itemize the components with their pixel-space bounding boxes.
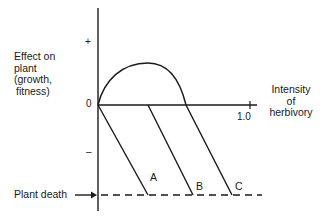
herbivory-effect-diagram: Effect on plant (growth, fitness) + – 0 …	[0, 0, 328, 222]
y-axis-label-line: fitness)	[14, 86, 55, 98]
arrow-head-icon	[91, 192, 97, 199]
x-axis-label-line: Intensity	[266, 84, 316, 96]
curve-c-label: C	[235, 181, 243, 193]
plant-death-label: Plant death	[14, 189, 67, 201]
y-axis-label: Effect on plant (growth, fitness)	[14, 51, 55, 97]
curve-a-label: A	[150, 172, 157, 184]
origin-label: 0	[86, 98, 92, 110]
curve-b-label: B	[196, 181, 203, 193]
curve-c	[98, 63, 232, 195]
y-axis-label-line: Effect on	[14, 51, 55, 63]
y-axis-label-line: (growth,	[14, 74, 55, 86]
curve-a	[98, 105, 148, 195]
positive-mark: +	[85, 36, 91, 48]
x-axis-end-label: 1.0	[237, 111, 251, 123]
negative-mark: –	[86, 146, 92, 158]
x-axis-label-line: herbivory	[266, 107, 316, 119]
x-axis-label: Intensity of herbivory	[266, 84, 316, 119]
